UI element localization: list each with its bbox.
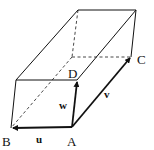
vector-label-v: v — [104, 88, 110, 100]
vector-label-w: w — [59, 99, 67, 111]
parallelepiped-diagram: A B C D u v w — [0, 0, 154, 150]
vertex-label-b: B — [2, 134, 11, 149]
vertex-label-c: C — [137, 52, 146, 67]
hidden-edge-back-diagonal — [11, 57, 72, 128]
vertex-label-d: D — [68, 66, 77, 81]
vertex-label-a: A — [67, 134, 77, 149]
vector-w-arrow — [72, 82, 77, 127]
edge-right-back-vertical — [131, 10, 136, 57]
vector-v-arrow — [72, 58, 130, 127]
edge-front-left — [11, 80, 16, 128]
vector-label-u: u — [36, 133, 42, 145]
edge-top-right — [77, 10, 136, 80]
hidden-edge-back-vertical — [72, 10, 78, 57]
vector-u-arrow — [13, 127, 72, 128]
